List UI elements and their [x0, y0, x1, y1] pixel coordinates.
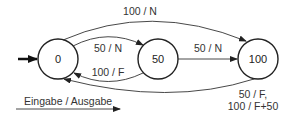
state-100: 100	[238, 39, 278, 79]
state-50: 50	[138, 39, 178, 79]
state-50-label: 50	[152, 53, 164, 65]
transition-100-to-0-label-line1: 50 / F,	[239, 88, 268, 100]
transition-50-to-0-label: 100 / F	[92, 66, 125, 78]
transition-100-to-0-label-line2: 100 / F+50	[228, 100, 279, 112]
state-diagram: 0 50 100 100 / N 50 / N 100 / F 50 / N 5…	[0, 0, 291, 119]
transition-0-to-100	[63, 21, 246, 41]
transition-100-to-0	[64, 79, 254, 93]
transition-50-to-100-label: 50 / N	[194, 42, 222, 54]
legend-label: Eingabe / Ausgabe	[24, 95, 112, 107]
transition-0-to-100-label: 100 / N	[123, 5, 157, 17]
state-0: 0	[38, 39, 78, 79]
state-100-label: 100	[249, 53, 267, 65]
transition-0-to-50-label: 50 / N	[94, 42, 122, 54]
state-0-label: 0	[55, 53, 61, 65]
